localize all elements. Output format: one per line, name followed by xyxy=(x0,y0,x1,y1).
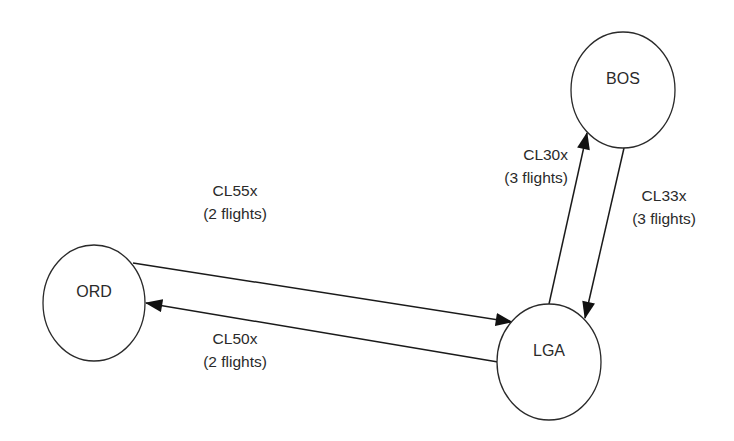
node-circle xyxy=(571,32,675,148)
edge-label-route: CL50x xyxy=(213,330,258,347)
edge-label-route: CL30x xyxy=(523,146,568,163)
edge-label-flights: (2 flights) xyxy=(203,205,267,222)
node-bos: BOS xyxy=(571,32,675,148)
edge-label-route: CL55x xyxy=(213,182,258,199)
edge-label-route: CL33x xyxy=(642,187,687,204)
node-label: BOS xyxy=(606,70,640,87)
node-label: ORD xyxy=(76,283,112,300)
arrow-bos-to-lga xyxy=(585,148,624,318)
edge-cl30x: CL30x (3 flights) xyxy=(504,133,587,304)
edge-label-flights: (3 flights) xyxy=(632,210,696,227)
node-label: LGA xyxy=(533,342,565,359)
node-circle xyxy=(497,304,601,420)
flight-network-diagram: CL55x (2 flights) CL50x (2 flights) CL30… xyxy=(0,0,734,441)
node-lga: LGA xyxy=(497,304,601,420)
node-ord: ORD xyxy=(43,245,145,361)
node-circle xyxy=(43,245,145,361)
edge-cl50x: CL50x (2 flights) xyxy=(146,303,498,370)
edge-label-flights: (2 flights) xyxy=(203,353,267,370)
edge-label-flights: (3 flights) xyxy=(504,169,568,186)
edge-cl33x: CL33x (3 flights) xyxy=(585,148,696,318)
edge-cl55x: CL55x (2 flights) xyxy=(133,182,512,322)
arrow-ord-to-lga xyxy=(133,263,512,322)
